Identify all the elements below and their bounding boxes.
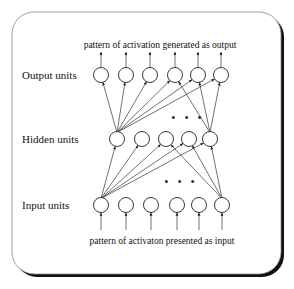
output-unit-node (214, 68, 229, 83)
hidden-unit-node (182, 132, 197, 147)
output-unit-node (119, 68, 134, 83)
output-unit-node (191, 68, 206, 83)
output-units-label: Output units (22, 69, 77, 81)
output-unit-node (168, 68, 183, 83)
hidden-unit-node (135, 132, 150, 147)
output-unit-node (94, 68, 109, 83)
hidden-units-label: Hidden units (22, 133, 79, 145)
hidden-unit-node (159, 132, 174, 147)
input-ellipsis: • • • (164, 175, 198, 189)
hidden-unit-node (110, 132, 125, 147)
input-units-label: Input units (22, 199, 69, 211)
hidden-ellipsis: • • • (171, 111, 205, 125)
network-diagram: pattern of activation generated as outpu… (0, 0, 294, 289)
input-unit-node (119, 198, 134, 213)
input-unit-node (192, 198, 207, 213)
output-unit-node (143, 68, 158, 83)
hidden-unit-node (203, 132, 218, 147)
input-unit-node (215, 198, 230, 213)
input-unit-node (170, 198, 185, 213)
input-unit-node (144, 198, 159, 213)
input-caption: pattern of activaton presented as input (90, 236, 235, 246)
input-unit-node (94, 198, 109, 213)
output-caption: pattern of activation generated as outpu… (84, 40, 237, 50)
